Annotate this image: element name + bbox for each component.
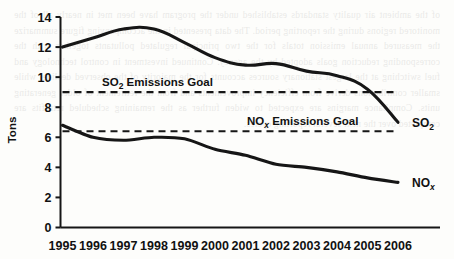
nox-series-label: NOx	[412, 176, 436, 192]
x-axis-year-labels: 1995199619971998199920002001200220032004…	[49, 239, 412, 253]
x-axis-year-label: 2003	[293, 239, 321, 253]
svg-text:NOx: NOx	[412, 176, 436, 192]
y-axis-ticks: 02468101214	[38, 11, 61, 236]
so2-goal-label: SO2 Emissions Goal	[102, 76, 213, 91]
x-axis-year-label: 2000	[201, 239, 229, 253]
nox-series-line	[63, 125, 399, 182]
so2-series-label-main: SO	[412, 116, 429, 130]
so2-series-line	[63, 27, 399, 122]
x-axis-year-label: 1995	[49, 239, 77, 253]
y-axis-tick-label: 4	[45, 161, 52, 175]
x-axis-year-label: 1997	[110, 239, 138, 253]
y-axis-title: Tons	[6, 117, 18, 144]
x-axis-year-label: 2002	[262, 239, 290, 253]
nox-goal-label-suffix: Emissions Goal	[269, 115, 358, 127]
x-axis-year-label: 1999	[171, 239, 199, 253]
so2-goal-label-prefix: SO	[102, 76, 119, 88]
x-axis-year-label: 2006	[384, 239, 412, 253]
y-axis-tick-label: 10	[38, 71, 52, 85]
svg-text:SO2 Emissions Goal: SO2 Emissions Goal	[102, 76, 213, 91]
y-axis-tick-label: 8	[45, 101, 52, 115]
x-axis-year-label: 2001	[232, 239, 260, 253]
emissions-line-chart: 02468101214 Tons SO2 Emissions Goal NOx …	[0, 0, 454, 259]
chart-svg: 02468101214 Tons SO2 Emissions Goal NOx …	[0, 0, 454, 259]
so2-goal-label-suffix: Emissions Goal	[123, 76, 212, 88]
x-axis-year-label: 2005	[354, 239, 382, 253]
so2-series-label-subscript: 2	[429, 122, 434, 132]
nox-series-label-subscript: x	[429, 182, 436, 192]
y-axis-tick-label: 2	[45, 191, 52, 205]
x-axis-year-label: 1998	[140, 239, 168, 253]
svg-text:NOx Emissions Goal: NOx Emissions Goal	[247, 115, 358, 130]
nox-goal-label: NOx Emissions Goal	[247, 115, 358, 130]
y-axis-tick-label: 12	[38, 41, 52, 55]
nox-series-label-main: NO	[412, 176, 430, 190]
y-axis-tick-label: 0	[45, 221, 52, 235]
x-axis-year-label: 1996	[79, 239, 107, 253]
y-axis-tick-label: 14	[38, 11, 52, 25]
nox-goal-label-prefix: NO	[247, 115, 264, 127]
so2-series-label: SO2	[412, 116, 434, 132]
y-axis-tick-label: 6	[45, 131, 52, 145]
x-axis-year-label: 2004	[323, 239, 351, 253]
svg-text:SO2: SO2	[412, 116, 434, 132]
